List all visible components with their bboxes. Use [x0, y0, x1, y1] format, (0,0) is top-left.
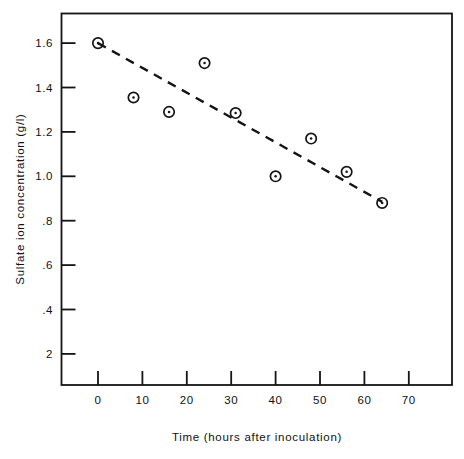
- x-tick-label: 10: [135, 394, 149, 406]
- data-point-center-dot: [274, 175, 277, 178]
- y-tick-label: 1.4: [35, 82, 53, 94]
- y-axis-ticks: [62, 43, 76, 354]
- chart-figure: 1.6 1.4 1.2 1.0 .8 .6 .4 2 0 10 20 30 40: [0, 0, 464, 459]
- x-tick-label: 50: [313, 394, 327, 406]
- x-tick-label: 60: [357, 394, 371, 406]
- x-tick-label: 30: [224, 394, 238, 406]
- scatter-plot-svg: 1.6 1.4 1.2 1.0 .8 .6 .4 2 0 10 20 30 40: [0, 0, 464, 459]
- trend-line: [98, 43, 382, 202]
- x-tick-label: 0: [95, 394, 102, 406]
- y-tick-label: 2: [46, 348, 53, 360]
- y-axis-label: Sulfate ion concentration (g/l): [14, 113, 26, 284]
- data-point-center-dot: [310, 137, 313, 140]
- y-tick-label: .4: [42, 304, 53, 316]
- data-point-center-dot: [234, 112, 237, 115]
- y-tick-label: 1.6: [35, 37, 53, 49]
- x-axis-label: Time (hours after inoculation): [172, 431, 342, 443]
- x-tick-label: 70: [402, 394, 416, 406]
- data-point-center-dot: [97, 42, 100, 45]
- y-axis-tick-labels: 1.6 1.4 1.2 1.0 .8 .6 .4 2: [35, 37, 53, 360]
- data-point-center-dot: [381, 202, 384, 205]
- y-tick-label: 1.2: [35, 126, 53, 138]
- x-tick-label: 20: [180, 394, 194, 406]
- data-point-center-dot: [345, 171, 348, 174]
- y-tick-label: .8: [42, 215, 53, 227]
- y-tick-label: .6: [42, 259, 53, 271]
- data-point-center-dot: [132, 96, 135, 99]
- data-point-center-dot: [168, 111, 171, 114]
- x-axis-tick-labels: 0 10 20 30 40 50 60 70: [95, 394, 416, 406]
- plot-frame: [62, 14, 453, 386]
- x-tick-label: 40: [269, 394, 283, 406]
- x-axis-ticks: [98, 371, 409, 385]
- y-tick-label: 1.0: [35, 170, 53, 182]
- data-point-center-dot: [203, 62, 206, 65]
